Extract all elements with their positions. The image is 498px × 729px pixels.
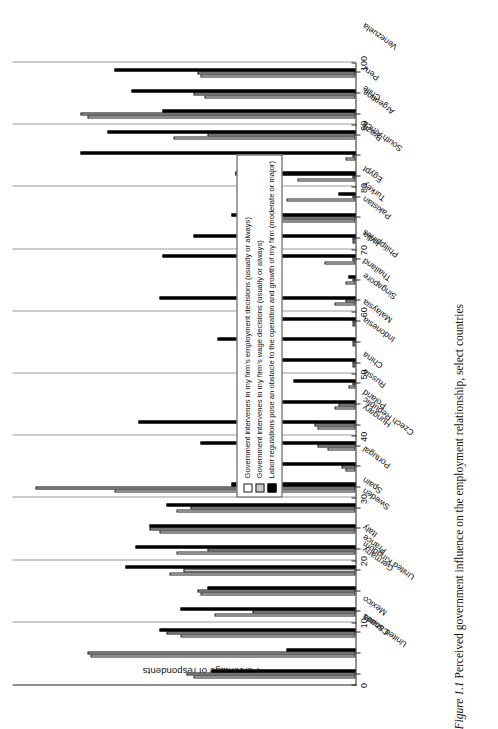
- bar-group: [12, 373, 355, 394]
- bar: [286, 648, 355, 651]
- legend-label: Government intervenes in my firm's wage …: [254, 240, 264, 478]
- bar-group: [12, 477, 355, 498]
- plot-region: [12, 63, 356, 685]
- bar: [135, 545, 355, 548]
- axis-tick-mark: [351, 311, 356, 312]
- bar: [211, 669, 355, 672]
- bar: [166, 503, 355, 506]
- bar: [207, 586, 355, 589]
- bar-group: [12, 62, 355, 83]
- bar-series-container: [12, 63, 355, 684]
- axis-tick-mark: [351, 62, 356, 63]
- category-label: Brazil: [360, 123, 383, 144]
- bar: [297, 178, 355, 181]
- axis-tick-mark: [351, 497, 356, 498]
- bar: [149, 524, 355, 527]
- bar-group: [12, 663, 355, 684]
- axis-tick-mark: [351, 124, 356, 125]
- axis-tick-mark: [351, 435, 356, 436]
- bar-group: [12, 643, 355, 664]
- bar-group: [12, 394, 355, 415]
- figure-rotation-wrapper: Percentage of respondents 01020304050607…: [0, 0, 498, 729]
- bar: [348, 275, 355, 278]
- category-label: Russia: [360, 367, 387, 390]
- bar-group: [12, 622, 355, 643]
- bar: [293, 379, 355, 382]
- axis-tick-mark: [351, 560, 356, 561]
- bar-group: [12, 497, 355, 518]
- legend-label: Government intervenes in my firm's emplo…: [242, 217, 252, 478]
- bar-group: [12, 186, 355, 207]
- bar: [125, 565, 355, 568]
- bar-group: [12, 103, 355, 124]
- category-label: Portugal: [360, 444, 392, 471]
- legend-item: Government intervenes in my firm's emplo…: [241, 161, 253, 492]
- legend-label: Labor regulations pose an obstacle to th…: [266, 161, 276, 478]
- axis-tick-mark: [351, 373, 356, 374]
- bar-group: [12, 435, 355, 456]
- bar: [286, 198, 355, 201]
- bar: [107, 130, 355, 133]
- figure-caption: Figure 1.1 Perceived government influenc…: [452, 29, 464, 729]
- category-label: Canada: [360, 612, 390, 637]
- figure-caption-text: Perceived government influence on the em…: [452, 303, 464, 678]
- bar-group: [12, 124, 355, 145]
- bar: [131, 89, 355, 92]
- legend-item: Government intervenes in my firm's wage …: [253, 161, 265, 492]
- chart-area: Percentage of respondents 01020304050607…: [0, 0, 430, 729]
- category-label: Peru: [360, 64, 381, 83]
- bar: [114, 68, 355, 71]
- category-label: Chile: [360, 83, 382, 102]
- bar: [180, 607, 355, 610]
- bar: [159, 628, 355, 631]
- bar-group: [12, 456, 355, 477]
- legend-swatch-icon: [243, 483, 252, 492]
- bar-group: [12, 166, 355, 187]
- bar-group: [12, 414, 355, 435]
- bar-group: [12, 560, 355, 581]
- bar-group: [12, 269, 355, 290]
- bar-group: [12, 580, 355, 601]
- category-label: Egypt: [360, 164, 384, 185]
- bar-group: [12, 352, 355, 373]
- bar-group: [12, 311, 355, 332]
- category-label: China: [360, 350, 384, 371]
- axis-tick-mark: [351, 622, 356, 623]
- legend-swatch-icon: [255, 483, 264, 492]
- bar-group: [12, 601, 355, 622]
- axis-tick-mark: [351, 186, 356, 187]
- bar-group: [12, 518, 355, 539]
- bar: [324, 261, 355, 264]
- bar-group: [12, 539, 355, 560]
- legend-item: Labor regulations pose an obstacle to th…: [265, 161, 277, 492]
- bar-group: [12, 249, 355, 270]
- axis-tick-mark: [351, 684, 356, 685]
- bar: [162, 109, 355, 112]
- bar-group: [12, 207, 355, 228]
- legend: Government intervenes in my firm's emplo…: [236, 154, 282, 497]
- category-label: Venezuela: [360, 21, 399, 52]
- category-label: India: [360, 229, 381, 248]
- bar-group: [12, 290, 355, 311]
- bar-group: [12, 228, 355, 249]
- figure-number: Figure 1.1: [452, 681, 464, 729]
- axis-tick-mark: [351, 249, 356, 250]
- category-labels: United StatesCanadaMexicoUnited KingdomG…: [360, 63, 430, 685]
- bar-group: [12, 83, 355, 104]
- bar: [338, 192, 355, 195]
- legend-swatch-icon: [267, 483, 276, 492]
- bar: [80, 151, 355, 154]
- bar-group: [12, 145, 355, 166]
- bar-group: [12, 332, 355, 353]
